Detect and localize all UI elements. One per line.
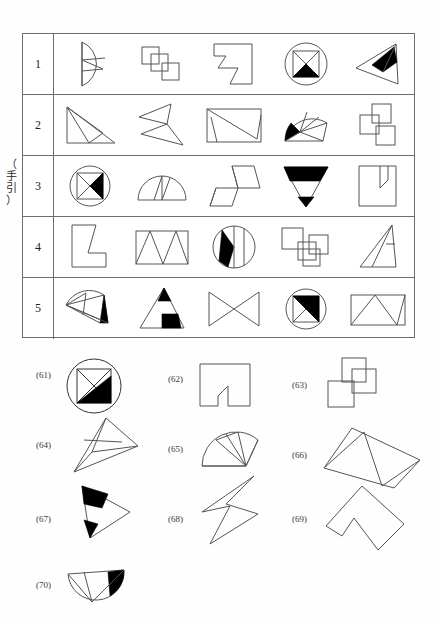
table-row: 4 [23, 217, 414, 278]
notched-square-arrow-icon [350, 160, 406, 212]
rectangle-with-inner-zigzag-icon [201, 99, 267, 151]
question-label: (69) [292, 514, 307, 524]
rectangle-with-zigzag-triangles-icon [130, 221, 194, 273]
row-number: 2 [23, 95, 54, 155]
zigzag-hexagon-block-icon [206, 38, 262, 90]
row-figures [54, 34, 414, 94]
three-overlapping-squares-offset-icon [350, 99, 406, 151]
figure-cell [54, 34, 126, 95]
half-disc-three-sectors-icon [132, 160, 192, 212]
question-label: (65) [168, 444, 183, 454]
figure-cell [54, 156, 126, 217]
figure-cell [342, 217, 414, 278]
row-number: 3 [23, 156, 54, 216]
elongated-triangle-subdivided-icon [62, 410, 144, 478]
row-number: 5 [23, 278, 54, 339]
question-label: (61) [36, 370, 51, 380]
circle-with-square-black-left-triangle-icon [62, 160, 118, 212]
figure-cell [126, 156, 198, 217]
rectangle-with-inner-triangles-icon [345, 283, 411, 335]
figure-cell [342, 95, 414, 156]
half-disc-divided-left-icon [62, 38, 118, 90]
figure-cell [270, 156, 342, 217]
triangle-with-black-quadrilateral-icon [350, 38, 406, 90]
circle-square-diagonal-black-lower-right-icon [62, 354, 126, 418]
figure-cell [54, 217, 126, 278]
question-figure [196, 470, 272, 550]
question-label: (64) [36, 440, 51, 450]
guide-label-char-3: ） [2, 194, 20, 206]
question-label: (63) [292, 380, 307, 390]
figure-cell [54, 278, 126, 339]
three-squares-stair-icon [276, 221, 336, 273]
figure-cell [270, 278, 342, 339]
question-figure [196, 360, 258, 416]
guide-label: （ 手 引 ） [2, 158, 20, 206]
row-figures [54, 95, 414, 155]
row-number: 4 [23, 217, 54, 277]
figure-cell [198, 217, 270, 278]
question-label: (67) [36, 514, 51, 524]
row-figures [54, 217, 414, 277]
figure-cell [198, 278, 270, 339]
figure-cell [198, 34, 270, 95]
table-row: 1 [23, 34, 414, 95]
circle-with-square-x-black-bottom-icon [278, 38, 334, 90]
figure-cell [126, 278, 198, 339]
notched-square-arrow-outline-icon [196, 360, 258, 416]
guide-label-char-1: 手 [2, 170, 20, 182]
table-row: 2 [23, 95, 414, 156]
table-row: 3 [23, 156, 414, 217]
figure-cell [126, 95, 198, 156]
figure-cell [198, 95, 270, 156]
question-figure [62, 560, 138, 612]
question-label: (66) [292, 450, 307, 460]
guide-table: 1 [22, 33, 415, 338]
row-figures [54, 156, 414, 216]
question-figure [62, 354, 126, 418]
three-overlapping-squares-diagonal-icon [320, 355, 382, 419]
table-row: 5 [23, 278, 414, 339]
three-overlapping-squares-icon [134, 38, 190, 90]
row-figures [54, 278, 414, 339]
figure-cell [54, 95, 126, 156]
question-label: (70) [36, 580, 51, 590]
bowtie-double-triangle-icon [203, 283, 265, 335]
question-area: (61) (62) (63) [0, 352, 438, 620]
figure-cell [342, 34, 414, 95]
arrow-like-double-triangle-icon [131, 99, 193, 151]
question-label: (62) [168, 374, 183, 384]
figure-cell [270, 217, 342, 278]
tilted-notched-polygon-icon [320, 480, 412, 556]
inverted-triangle-black-bands-icon [278, 160, 334, 212]
triangle-with-inner-lines-icon [350, 221, 406, 273]
question-figure [320, 480, 412, 556]
question-figure [320, 355, 382, 419]
circle-with-black-wedge-vertical-icon [206, 221, 262, 273]
row-number: 1 [23, 34, 54, 94]
figure-cell [126, 34, 198, 95]
question-label: (68) [168, 514, 183, 524]
figure-cell [126, 217, 198, 278]
figure-cell [198, 156, 270, 217]
question-figure [62, 410, 144, 478]
guide-label-char-0: （ [2, 158, 20, 170]
zigzag-lightning-outline-icon [196, 470, 272, 550]
triangle-with-two-black-wedges-icon [62, 482, 140, 546]
L-shaped-polygon-icon [62, 221, 118, 273]
half-disc-with-black-wedge-icon [62, 560, 138, 612]
figure-cell [270, 95, 342, 156]
question-figure [62, 482, 140, 546]
fan-with-black-wedge-icon [277, 99, 335, 151]
figure-cell [270, 34, 342, 95]
worksheet-page: （ 手 引 ） 1 [0, 0, 438, 620]
stepped-parallelogram-group-icon [202, 160, 266, 212]
figure-cell [342, 278, 414, 339]
triangle-with-black-parts-icon [134, 283, 190, 335]
fan-with-black-tip-icon [60, 283, 120, 335]
figure-cell [342, 156, 414, 217]
guide-label-char-2: 引 [2, 182, 20, 194]
right-triangle-subdivided-icon [59, 99, 121, 151]
circle-with-square-black-upper-icon [278, 283, 334, 335]
